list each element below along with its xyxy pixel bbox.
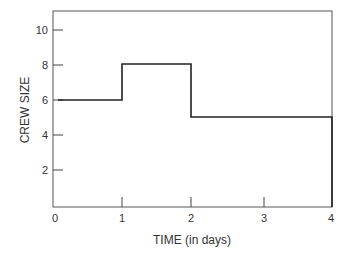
x-axis-ticks — [122, 197, 264, 207]
y-axis-label: CREW SIZE — [18, 77, 32, 144]
y-tick-label: 4 — [42, 129, 48, 141]
x-tick-label: 4 — [328, 212, 334, 224]
chart-svg: 2 4 6 8 10 0 1 2 3 4 TIME (in days) CREW… — [0, 0, 347, 255]
y-tick-label: 8 — [42, 59, 48, 71]
x-axis-label: TIME (in days) — [153, 233, 231, 247]
crew-size-step-line — [58, 64, 332, 207]
x-tick-labels: 0 1 2 3 4 — [52, 212, 334, 224]
y-tick-label: 10 — [36, 24, 48, 36]
y-tick-labels: 2 4 6 8 10 — [36, 24, 48, 176]
x-tick-label: 3 — [261, 212, 267, 224]
x-tick-label: 1 — [119, 212, 125, 224]
plot-frame — [53, 11, 332, 207]
x-tick-label: 0 — [52, 212, 58, 224]
y-tick-label: 6 — [42, 94, 48, 106]
y-tick-label: 2 — [42, 164, 48, 176]
x-tick-label: 2 — [188, 212, 194, 224]
